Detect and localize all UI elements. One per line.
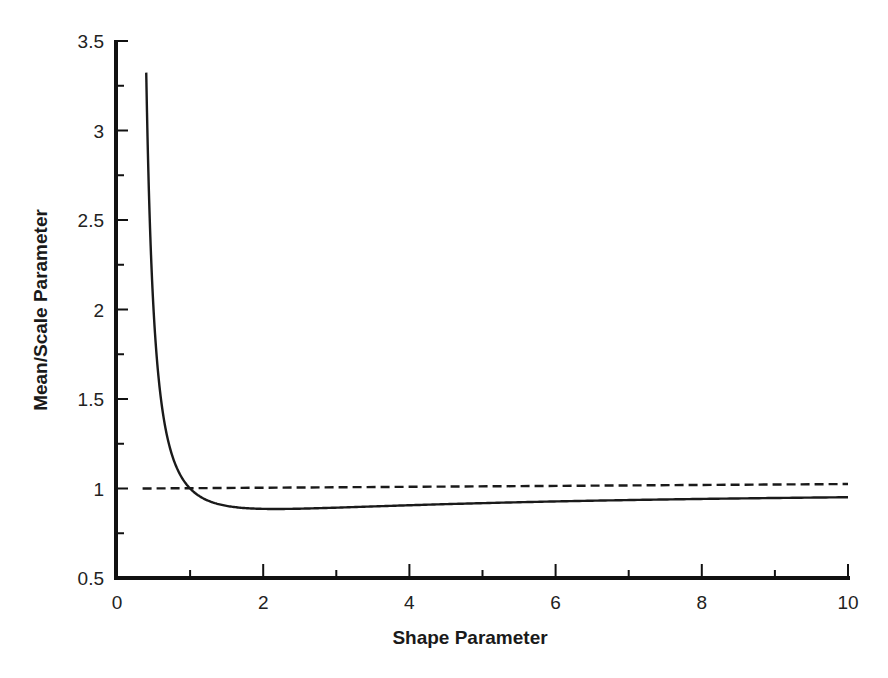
y-axis-title: Mean/Scale Parameter [30, 209, 51, 411]
plot-series [143, 73, 848, 509]
y-axis-ticks: 0.511.522.533.5 [78, 31, 128, 589]
x-tick-label: 2 [258, 592, 269, 613]
dashed-reference-line [143, 484, 848, 488]
x-tick-label: 8 [697, 592, 708, 613]
x-tick-label: 4 [404, 592, 415, 613]
y-tick-label: 2.5 [78, 210, 104, 231]
x-tick-label: 0 [112, 592, 123, 613]
solid-curve [146, 73, 848, 509]
x-axis-title: Shape Parameter [392, 627, 548, 648]
y-tick-label: 1 [93, 479, 104, 500]
y-tick-label: 3.5 [78, 31, 104, 52]
y-tick-label: 1.5 [78, 389, 104, 410]
x-tick-label: 10 [837, 592, 858, 613]
y-tick-label: 3 [93, 121, 104, 142]
y-tick-label: 2 [93, 300, 104, 321]
x-axis-ticks: 0246810 [112, 564, 859, 613]
y-tick-label: 0.5 [78, 568, 104, 589]
chart: 0.511.522.533.5 0246810 Shape Parameter … [0, 0, 888, 678]
x-tick-label: 6 [550, 592, 561, 613]
